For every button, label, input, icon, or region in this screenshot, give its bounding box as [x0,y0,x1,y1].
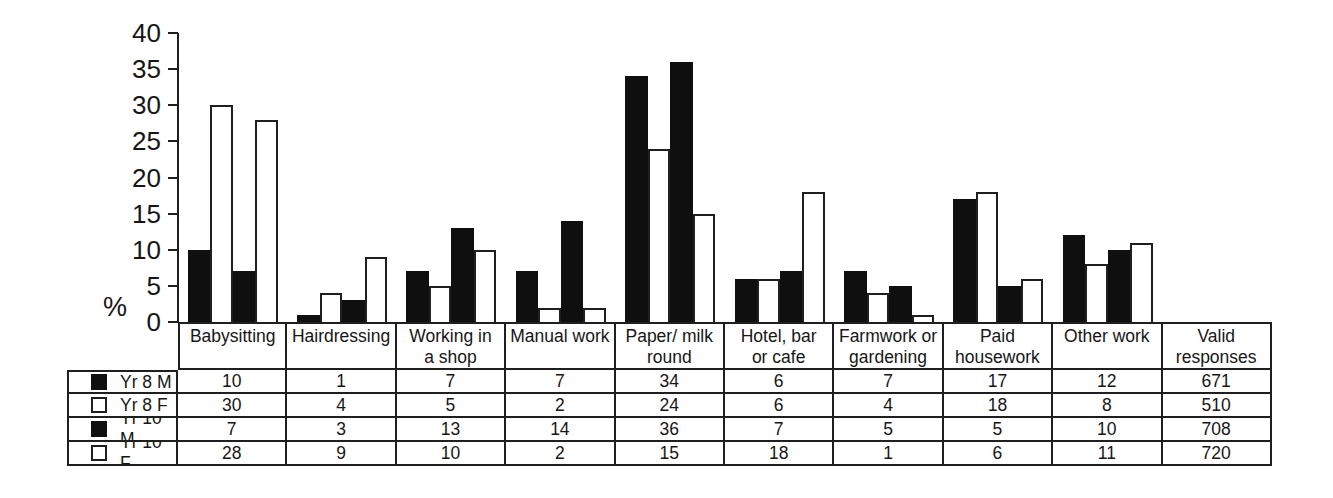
y-tick-mark [168,68,178,70]
value-cell: 3 [287,418,396,442]
value-cell: 7 [178,418,287,442]
column-header-line: a shop [397,347,504,368]
y-tick-label: 40 [92,18,161,48]
column-header-line: Hairdressing [287,326,394,347]
value-cell: 10 [397,442,506,466]
value-cell: 8 [1053,394,1162,418]
value-cell: 4 [834,394,943,418]
bar [998,286,1021,322]
bar-group [944,33,1053,322]
bar [210,105,233,322]
column-header-line: gardening [834,347,941,368]
column-header-line: Farmwork or [834,326,941,347]
column-header-line: Hotel, bar [725,326,832,347]
column-header-cell: Other work [1053,322,1162,370]
column-header-cell: Working ina shop [397,322,506,370]
bar [976,192,999,322]
column-header-line: round [616,347,723,368]
column-header-line: or cafe [725,347,832,368]
bar [538,308,561,322]
bar [342,300,365,322]
bar [693,214,716,322]
column-header-line: Manual work [506,326,613,347]
y-tick-mark [168,177,178,179]
bar [912,315,935,322]
column-header-cell: Hairdressing [287,322,396,370]
column-header-line: Paper/ milk [616,326,723,347]
value-cell: 36 [616,418,725,442]
y-tick-mark [168,249,178,251]
y-tick-label: 25 [92,126,161,156]
bar [429,286,452,322]
y-tick-label: 20 [92,163,161,193]
value-cell: 18 [725,442,834,466]
legend-label: Yr 8 M [120,372,172,393]
column-header-cell: Paper/ milkround [616,322,725,370]
value-cell: 1 [834,442,943,466]
legend-swatch-black-icon [91,421,107,437]
legend-row: Yr 8 M [67,370,178,394]
bar [757,279,780,322]
y-tick-label: 5 [92,271,161,301]
y-tick-mark [168,285,178,287]
value-cell: 18 [944,394,1053,418]
legend-label: Yr 10 F [120,442,176,466]
bar [1108,250,1131,322]
bar [802,192,825,322]
bar [516,271,539,322]
y-tick-mark [168,104,178,106]
value-cell: 24 [616,394,725,418]
column-header-line: Working in [397,326,504,347]
value-cell: 12 [1053,370,1162,394]
bar [297,315,320,322]
y-tick-mark [168,32,178,34]
y-tick-mark [168,140,178,142]
column-header-cell: Validresponses [1163,322,1272,370]
column-header-cell: Hotel, baror cafe [725,322,834,370]
valid-responses-cell: 510 [1163,394,1272,418]
bar [255,120,278,322]
legend-row: Yr 8 F [67,394,178,418]
bar [1021,279,1044,322]
header-blank-cell [67,322,178,370]
y-tick-mark [168,213,178,215]
valid-responses-cell: 720 [1163,442,1272,466]
valid-responses-cell: 671 [1163,370,1272,394]
value-cell: 7 [725,418,834,442]
scanned-bar-chart-figure: % 4035302520151050 BabysittingHairdressi… [0,0,1333,498]
value-cell: 5 [397,394,506,418]
bar [670,62,693,322]
legend-label: Yr 8 F [120,395,168,416]
column-header-line: Paid [944,326,1051,347]
column-header-line: Babysitting [180,326,285,347]
bar-group [178,33,287,322]
bar-group [834,33,943,322]
bar [365,257,388,322]
column-header-line: responses [1163,347,1270,368]
y-tick-label: 35 [92,54,161,84]
plot-area [178,33,1163,322]
bar-group [397,33,506,322]
value-cell: 14 [506,418,615,442]
bar [1130,243,1153,322]
bar [561,221,584,322]
column-header-line: housework [944,347,1051,368]
bar-group [725,33,834,322]
legend-swatch-white-icon [91,445,107,461]
legend-label: Yr 10 M [120,418,176,442]
bar [889,286,912,322]
column-header-cell: Farmwork orgardening [834,322,943,370]
bar [583,308,606,322]
bar [953,199,976,322]
bar [735,279,758,322]
value-cell: 5 [944,418,1053,442]
bar [188,250,211,322]
y-tick-label: 30 [92,90,161,120]
value-cell: 2 [506,394,615,418]
column-header-cell: Manual work [506,322,615,370]
bar [320,293,343,322]
y-tick-label: 10 [92,235,161,265]
value-cell: 7 [506,370,615,394]
value-cell: 6 [944,442,1053,466]
value-cell: 6 [725,394,834,418]
